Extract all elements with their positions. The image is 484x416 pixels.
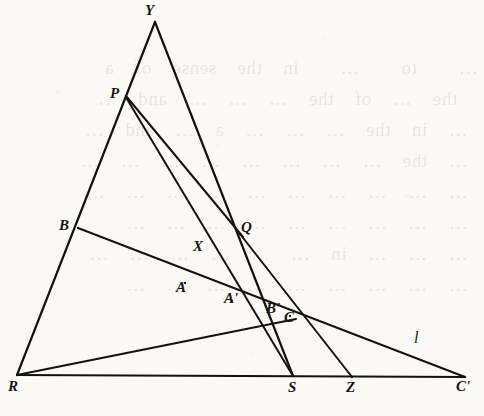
label-C-prime: C' [456,378,470,395]
segments-group [17,22,465,377]
vertices-group [16,21,466,378]
label-Z: Z [346,379,355,396]
line-P-to-S [127,99,293,376]
line-P-to-Q [126,96,243,237]
geometry-figure: … to … in the sense of a the … of the … … [0,0,484,416]
vertex-point-Z [351,376,353,378]
line-Q-to-Z [240,234,352,377]
label-Q: Q [241,219,252,236]
label-X: X [193,238,203,255]
label-R: R [8,378,18,395]
vertex-point-R [16,374,18,376]
vertex-point-P [125,95,127,97]
label-P: P [110,85,119,102]
label-B-prime: B' [266,300,280,317]
label-A-prime: A' [224,290,238,307]
vertex-point-B [77,227,79,229]
line-R-to-Q-to-C [17,319,296,375]
label-B: B [59,217,69,234]
diagram-canvas [0,0,484,416]
label-A: A [176,279,186,296]
label-Y: Y [145,2,154,19]
line-R-to-Y [17,22,155,375]
vertex-point-Y [154,21,156,23]
label-l: l [414,329,418,347]
label-C: C [284,309,294,326]
line-R-to-Cprime [17,375,465,377]
vertex-point-S [292,375,294,377]
label-S: S [288,379,296,396]
